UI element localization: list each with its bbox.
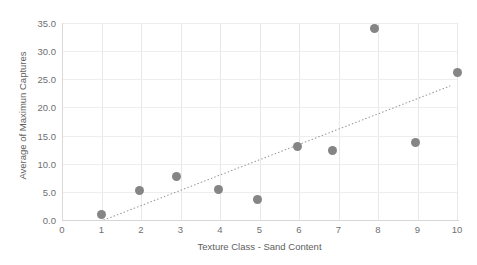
gridline-vertical — [102, 23, 103, 220]
data-point — [453, 68, 462, 77]
data-point — [214, 185, 223, 194]
x-axis-title: Texture Class - Sand Content — [62, 241, 457, 252]
x-tick-label: 1 — [99, 224, 104, 235]
x-tick-label: 7 — [336, 224, 341, 235]
x-axis-line — [62, 220, 459, 221]
gridline-horizontal — [62, 136, 457, 137]
gridline-vertical — [339, 23, 340, 220]
y-tick-label: 30.0 — [4, 46, 56, 57]
data-point — [370, 24, 379, 33]
gridline-horizontal — [62, 107, 457, 108]
scatter-chart: 0.05.010.015.020.025.030.035.0 012345678… — [0, 0, 477, 265]
y-axis-ticks: 0.05.010.015.020.025.030.035.0 — [0, 23, 56, 220]
y-tick-label: 25.0 — [4, 74, 56, 85]
gridline-horizontal — [62, 79, 457, 80]
data-point — [411, 138, 420, 147]
x-tick-label: 4 — [217, 224, 222, 235]
x-axis-ticks: 012345678910 — [62, 224, 457, 240]
gridline-vertical — [418, 23, 419, 220]
data-point — [97, 210, 106, 219]
data-point — [253, 195, 262, 204]
data-point — [328, 146, 337, 155]
gridline-horizontal — [62, 164, 457, 165]
plot-area — [62, 23, 457, 220]
y-axis-line — [62, 23, 63, 221]
x-tick-label: 5 — [257, 224, 262, 235]
y-tick-label: 10.0 — [4, 158, 56, 169]
x-tick-label: 9 — [415, 224, 420, 235]
gridline-vertical — [260, 23, 261, 220]
gridline-horizontal — [62, 51, 457, 52]
x-tick-label: 0 — [59, 224, 64, 235]
x-tick-label: 8 — [375, 224, 380, 235]
y-axis-title: Average of Maximun Captures — [17, 16, 28, 216]
gridline-vertical — [378, 23, 379, 220]
gridline-horizontal — [62, 23, 457, 24]
y-tick-label: 35.0 — [4, 18, 56, 29]
gridline-horizontal — [62, 192, 457, 193]
trendline-segment — [104, 86, 450, 220]
gridline-vertical — [181, 23, 182, 220]
x-tick-label: 2 — [138, 224, 143, 235]
x-tick-label: 3 — [178, 224, 183, 235]
y-tick-label: 20.0 — [4, 102, 56, 113]
data-point — [135, 186, 144, 195]
data-point — [293, 142, 302, 151]
y-tick-label: 15.0 — [4, 130, 56, 141]
gridline-vertical — [299, 23, 300, 220]
x-tick-label: 6 — [296, 224, 301, 235]
y-tick-label: 5.0 — [4, 186, 56, 197]
y-tick-label: 0.0 — [4, 215, 56, 226]
x-tick-label: 10 — [452, 224, 463, 235]
gridline-vertical — [457, 23, 458, 220]
